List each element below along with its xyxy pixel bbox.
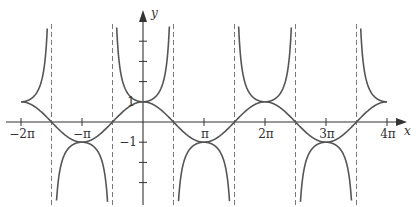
y-axis-arrow-icon (139, 10, 147, 22)
tick-label-pi: π (201, 127, 209, 141)
asymptote-lines (52, 24, 357, 205)
x-axis-label: x (404, 124, 411, 138)
tick-label-1: 1 (127, 95, 135, 109)
sec-curve (21, 27, 387, 202)
y-axis-label: y (150, 6, 158, 20)
sec-cos-chart: x y −2π −π π 2π 3π 4π 1 −1 (0, 0, 418, 207)
tick-label-4pi: 4π (380, 127, 396, 141)
axis-ticks (21, 41, 387, 182)
axes (6, 10, 407, 205)
curves (21, 27, 387, 202)
tick-label-neg2pi: −2π (9, 127, 35, 141)
tick-label-neg1: −1 (119, 135, 137, 149)
tick-label-3pi: 3π (319, 127, 335, 141)
tick-label-2pi: 2π (258, 127, 274, 141)
tick-label-negpi: −π (73, 127, 91, 141)
